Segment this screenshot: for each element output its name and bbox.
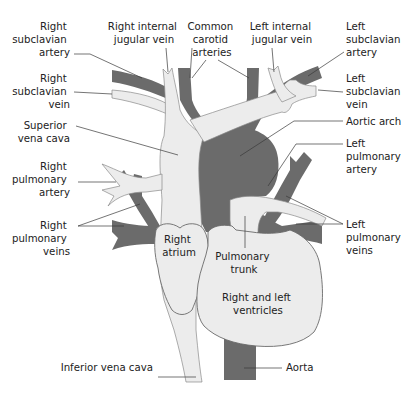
label-inferior-vena-cava: Inferior vena cava [61,362,153,373]
heart-vessels-diagram: Right subclavian artery Right internal j… [0,0,416,396]
label-right-subclavian-artery: Right subclavian artery [12,21,70,58]
label-common-carotid-arteries: Common carotid arteries [187,21,236,58]
label-left-pulmonary-veins: Left pulmonary veins [346,219,404,256]
right-pulmonary-artery [102,164,162,206]
diagram-canvas: Right subclavian artery Right internal j… [0,0,416,396]
label-right-pulmonary-veins: Right pulmonary veins [12,220,70,257]
label-right-pulmonary-artery: Right pulmonary artery [12,161,70,198]
label-left-internal-jugular-vein: Left internal jugular vein [250,21,315,45]
label-aortic-arch: Aortic arch [346,116,401,127]
label-left-subclavian-artery: Left subclavian artery [346,21,404,58]
label-left-pulmonary-artery: Left pulmonary artery [346,138,404,175]
label-superior-vena-cava: Superior vena cava [18,120,70,144]
label-left-subclavian-vein: Left subclavian vein [346,73,404,110]
ventricles-shape [197,225,323,346]
label-right-subclavian-vein: Right subclavian vein [12,73,70,110]
label-right-internal-jugular-vein: Right internal jugular vein [108,21,180,45]
label-aorta: Aorta [286,362,313,373]
